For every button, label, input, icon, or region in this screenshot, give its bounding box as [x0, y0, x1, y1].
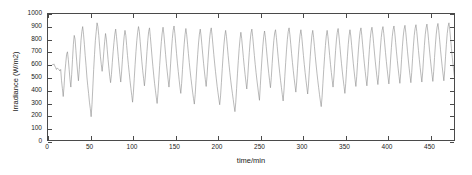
chart-figure: 050100150200250300350400450 010020030040… [0, 0, 472, 175]
y-tick-label: 900 [0, 22, 42, 30]
y-tick-label: 800 [0, 35, 42, 43]
y-tick-labels: 01002003004005006007008009001000 [0, 0, 472, 175]
y-tick-label: 600 [0, 60, 42, 68]
y-tick-label: 1000 [0, 9, 42, 17]
y-tick-label: 700 [0, 47, 42, 55]
y-axis-title: Irradiance (W/m2) [11, 34, 20, 130]
y-tick-label: 400 [0, 86, 42, 94]
y-tick-label: 300 [0, 99, 42, 107]
y-tick-label: 0 [0, 137, 42, 145]
y-tick-label: 200 [0, 111, 42, 119]
x-axis-title: time/min [237, 156, 265, 165]
y-tick-label: 100 [0, 124, 42, 132]
y-tick-label: 500 [0, 73, 42, 81]
